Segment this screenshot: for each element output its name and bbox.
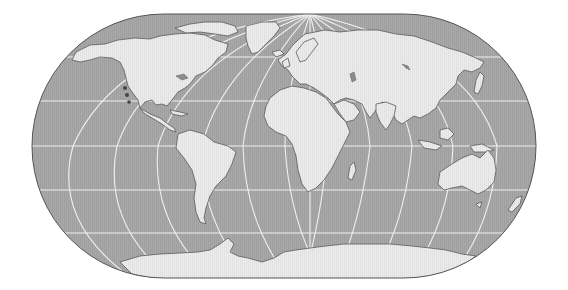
world-map: World map (oblique rounded pseudo-cylind… <box>0 0 568 290</box>
map-canvas <box>0 0 568 290</box>
